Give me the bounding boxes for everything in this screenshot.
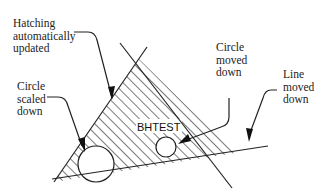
label-line: moved [216, 54, 247, 67]
hatch-label: BHTEST [137, 121, 181, 133]
label-line: Circle [216, 41, 247, 54]
label-line: automatically [13, 30, 76, 43]
label-line: down [216, 66, 247, 79]
label-line: down [17, 105, 46, 118]
label-line: down [283, 93, 314, 106]
label-hatching: Hatching automatically updated [13, 17, 76, 55]
label-line: Hatching [13, 17, 76, 30]
leader-line-moved [250, 90, 277, 133]
leader-hatching [74, 32, 112, 98]
label-line-moved: Line moved down [283, 68, 314, 106]
label-line: moved [283, 81, 314, 94]
label-line: Circle [17, 80, 46, 93]
label-circle-moved: Circle moved down [216, 41, 247, 79]
label-line: scaled [17, 93, 46, 106]
leader-circle-scaled [47, 97, 82, 146]
label-circle-scaled: Circle scaled down [17, 80, 46, 118]
label-line: Line [283, 68, 314, 81]
arrow-line-moved [246, 128, 253, 142]
label-line: updated [13, 42, 76, 55]
